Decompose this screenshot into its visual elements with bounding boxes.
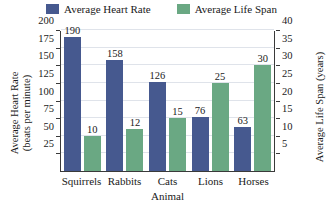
bar-heart-rate[interactable]: 76 — [192, 117, 209, 171]
y-axis-right-tick-label: 15 — [282, 103, 293, 114]
y-axis-right-tick-label: 10 — [282, 120, 293, 131]
y-axis-right-tick-label: 30 — [282, 50, 293, 61]
bar-value-label: 76 — [195, 105, 206, 116]
y-axis-right-tick — [276, 118, 280, 119]
bar-value-label: 30 — [257, 53, 268, 64]
y-axis-left-tick — [56, 30, 60, 31]
y-axis-right-tick-label: 35 — [282, 32, 293, 43]
bar-value-label: 15 — [172, 106, 183, 117]
y-axis-right-tick — [276, 83, 280, 84]
legend-label-heart-rate: Average Heart Rate — [64, 4, 151, 15]
plot-area: 19010158121261576256330 — [60, 31, 275, 172]
y-axis-left-tick — [56, 83, 60, 84]
y-axis-right-title: Average Life Span (years) — [314, 42, 326, 172]
y-axis-right-tick — [276, 101, 280, 102]
y-axis-left-tick — [56, 118, 60, 119]
bar-group: 12615 — [146, 31, 189, 171]
y-axis-left-tick-label: 175 — [38, 32, 54, 43]
bar-heart-rate[interactable]: 63 — [234, 127, 251, 171]
y-axis-right-tick-label: 20 — [282, 85, 293, 96]
bar-group: 15812 — [104, 31, 147, 171]
y-axis-left-tick-label: 50 — [44, 120, 55, 131]
bar-group: 19010 — [61, 31, 104, 171]
y-axis-left-tick-label: 100 — [38, 85, 54, 96]
bar-group: 7625 — [189, 31, 232, 171]
y-axis-right-tick-label: 40 — [282, 15, 293, 26]
bar-value-label: 126 — [150, 70, 166, 81]
legend-entry-heart-rate: Average Heart Rate — [46, 4, 151, 15]
y-axis-left-title-line1: Average Heart Rate — [9, 48, 21, 178]
legend-entry-life-span: Average Life Span — [177, 4, 277, 15]
bar-value-label: 190 — [64, 25, 80, 36]
bar-life-span[interactable]: 15 — [169, 118, 186, 171]
bar-heart-rate[interactable]: 190 — [64, 37, 81, 171]
y-axis-left-tick-label: 75 — [44, 103, 55, 114]
y-axis-left-title-line2: (beats per minute) — [21, 48, 33, 178]
y-axis-right-tick-label: 5 — [282, 138, 287, 149]
bar-groups: 19010158121261576256330 — [61, 31, 274, 171]
bar-value-label: 158 — [107, 48, 123, 59]
x-axis-category-label: Lions — [189, 175, 232, 189]
y-axis-right-tick-label: 25 — [282, 67, 293, 78]
y-axis-left-title: Average Heart Rate (beats per minute) — [9, 48, 33, 178]
x-axis-title: Animal — [60, 190, 275, 202]
y-axis-left-tick — [56, 48, 60, 49]
y-axis-right-tick — [276, 48, 280, 49]
x-axis-category-label: Cats — [146, 175, 189, 189]
y-axis-left-tick — [56, 136, 60, 137]
y-axis-left-tick-label: 150 — [38, 50, 54, 61]
y-axis-left-tick — [56, 153, 60, 154]
x-axis-tick-labels: SquirrelsRabbitsCatsLionsHorses — [60, 175, 275, 189]
bar-value-label: 10 — [87, 124, 98, 135]
bar-life-span[interactable]: 10 — [84, 136, 101, 171]
bar-life-span[interactable]: 30 — [254, 65, 271, 171]
y-axis-left-tick-label: 125 — [38, 67, 54, 78]
bar-value-label: 63 — [237, 115, 248, 126]
gridline — [61, 29, 274, 30]
x-axis-category-label: Rabbits — [103, 175, 146, 189]
y-axis-left-tick — [56, 101, 60, 102]
y-axis-left-tick-label: 200 — [38, 15, 54, 26]
x-axis-category-label: Horses — [232, 175, 275, 189]
bar-heart-rate[interactable]: 158 — [106, 60, 123, 171]
y-axis-right-tick — [276, 30, 280, 31]
legend-swatch-life-span — [177, 4, 190, 14]
legend-label-life-span: Average Life Span — [195, 4, 277, 15]
bar-value-label: 25 — [215, 71, 226, 82]
y-axis-left-tick-label: 25 — [44, 138, 55, 149]
bar-heart-rate[interactable]: 126 — [149, 82, 166, 171]
bar-group: 6330 — [231, 31, 274, 171]
y-axis-left-tick — [56, 65, 60, 66]
legend-swatch-heart-rate — [46, 4, 59, 14]
bar-value-label: 12 — [130, 117, 141, 128]
bar-life-span[interactable]: 25 — [212, 83, 229, 171]
y-axis-right-tick — [276, 136, 280, 137]
x-axis-category-label: Squirrels — [60, 175, 103, 189]
bar-life-span[interactable]: 12 — [126, 129, 143, 171]
y-axis-right-tick — [276, 65, 280, 66]
y-axis-right-tick — [276, 153, 280, 154]
